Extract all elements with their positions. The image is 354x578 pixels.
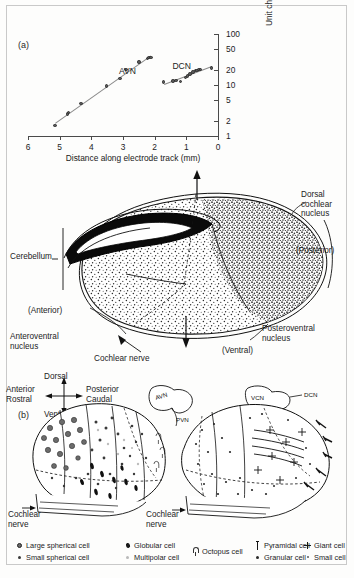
- legend-column-1: Large spherical cell Small spherical cel…: [14, 539, 126, 563]
- inset-avn-pvn: AVN PVN: [149, 386, 192, 426]
- y-tick-label: 50: [226, 44, 250, 54]
- y-tick-label: 10: [226, 80, 250, 90]
- globular-cell-icon: [122, 543, 133, 548]
- data-point-dcn: [210, 66, 213, 69]
- label-cochlear-nerve-middle: Cochlear nerve: [94, 354, 150, 364]
- label-cerebellum: Cerebellum: [10, 252, 52, 262]
- data-point-avn: [105, 84, 108, 87]
- x-tick-label: 5: [51, 142, 69, 152]
- dorsal-direction-arrow: [193, 170, 200, 200]
- x-tick: [91, 136, 92, 140]
- series-annotation-avn: AVN: [119, 66, 136, 76]
- panel-b-left-diagram: [22, 404, 165, 516]
- y-tick-label: 1: [226, 131, 250, 141]
- y-tick-label: 2: [226, 116, 250, 126]
- octopus-cell-icon: [190, 547, 201, 556]
- cell-type-legend: Large spherical cell Small spherical cel…: [14, 539, 344, 565]
- label-cochlear-nerve-left: Cochlear nerve: [8, 510, 41, 529]
- multipolar-cell-icon: [122, 556, 133, 559]
- small-cell-icon: [302, 556, 313, 558]
- legend-label: Small spherical cell: [25, 553, 89, 562]
- y-axis-title: Unit characteristic frequency (kHz): [264, 0, 274, 26]
- panel-a-chart: 6543210125102050100AVNDCN Unit character…: [10, 14, 340, 160]
- legend-label: Octopus cell: [201, 547, 243, 556]
- label-dorsal-cochlear-nucleus: Dorsal cochlear nucleus: [301, 190, 332, 219]
- compass-dorsal: Dorsal: [44, 372, 68, 381]
- legend-label: Giant cell: [313, 541, 345, 550]
- label-cochlear-nerve-right: Cochlear nerve: [146, 510, 179, 529]
- legend-label: Small cell: [313, 553, 346, 562]
- legend-column-5: Giant cell Small cell: [302, 539, 354, 563]
- legend-item: Octopus cell: [190, 545, 260, 557]
- x-tick-label: 1: [177, 142, 195, 152]
- legend-item: Giant cell: [302, 539, 354, 551]
- x-tick: [28, 136, 29, 140]
- x-tick: [155, 136, 156, 140]
- y-tick: [214, 70, 219, 71]
- y-tick: [214, 85, 219, 86]
- x-tick: [186, 136, 187, 140]
- granular-cell-icon: [252, 556, 263, 559]
- middle-anatomical-drawing: Cerebellum Dorsal cochlear nucleus (Post…: [6, 166, 347, 366]
- legend-column-3: Octopus cell: [190, 545, 260, 557]
- x-tick-label: 2: [146, 142, 164, 152]
- svg-text:DCN: DCN: [304, 391, 317, 398]
- cochlear-nerve-pointer: [118, 335, 141, 352]
- giant-cell-icon: [302, 542, 313, 549]
- label-anteroventral-nucleus: Anteroventral nucleus: [10, 332, 59, 351]
- y-tick: [214, 100, 219, 101]
- chart-plot-area: 6543210125102050100AVNDCN: [10, 14, 340, 160]
- data-point-dcn: [179, 80, 182, 83]
- x-tick-label: 4: [82, 142, 100, 152]
- data-point-avn: [149, 56, 152, 59]
- x-tick-label: 6: [19, 142, 37, 152]
- legend-label: Granular cell: [263, 553, 306, 562]
- legend-label: Large spherical cell: [25, 541, 90, 550]
- y-tick-label: 100: [226, 29, 250, 39]
- y-tick-label: 5: [226, 95, 250, 105]
- x-tick-label: 3: [114, 142, 132, 152]
- x-tick: [60, 136, 61, 140]
- data-point-dcn: [174, 79, 177, 82]
- legend-label: Globular cell: [133, 541, 175, 550]
- label-anterior: (Anterior): [28, 306, 62, 316]
- legend-column-2: Globular cell Multipolar cell: [122, 539, 198, 563]
- legend-label: Multipolar cell: [133, 553, 179, 562]
- legend-item: Small cell: [302, 551, 354, 563]
- large-filled-circle-icon: [14, 543, 25, 548]
- legend-item: Globular cell: [122, 539, 198, 551]
- data-point-avn: [79, 102, 82, 105]
- y-tick: [214, 136, 219, 137]
- figure-root: (a) 6543210125102050100AVNDCN Unit chara…: [0, 0, 354, 578]
- y-tick: [214, 121, 219, 122]
- label-posterior: (Posterior): [296, 246, 334, 256]
- legend-item: Small spherical cell: [14, 551, 126, 563]
- data-point-avn: [53, 124, 56, 127]
- x-axis-title: Distance along electrode track (mm): [28, 153, 238, 163]
- panel-b-right-diagram: [172, 404, 332, 518]
- small-filled-circle-icon: [14, 556, 25, 559]
- label-posteroventral-nucleus: Posteroventral nucleus: [262, 324, 315, 343]
- data-point-dcn: [162, 80, 165, 83]
- panel-b-diagrams: AVN PVN VCN DCN: [6, 382, 347, 532]
- data-point-dcn: [199, 68, 202, 71]
- svg-text:PVN: PVN: [176, 416, 189, 423]
- y-tick: [214, 34, 219, 35]
- pyramidal-cell-icon: [252, 541, 263, 550]
- x-tick: [123, 136, 124, 140]
- label-ventral: (Ventral): [222, 346, 253, 356]
- legend-item: Large spherical cell: [14, 539, 126, 551]
- svg-text:VCN: VCN: [251, 394, 264, 401]
- data-point-avn: [67, 111, 70, 114]
- y-tick-label: 20: [226, 65, 250, 75]
- series-annotation-dcn: DCN: [172, 61, 191, 71]
- y-tick: [214, 49, 219, 50]
- data-point-avn: [118, 77, 121, 80]
- legend-item: Multipolar cell: [122, 551, 198, 563]
- data-point-avn: [137, 60, 140, 63]
- x-tick-label: 0: [209, 142, 227, 152]
